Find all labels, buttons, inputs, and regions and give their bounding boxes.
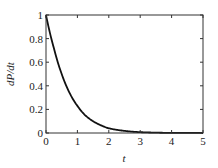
y-tick-label: 0.8 [29, 33, 43, 45]
y-tick-label: 0 [38, 127, 44, 139]
y-tick-label: 0.4 [29, 80, 43, 92]
y-tick-label: 0.6 [29, 56, 43, 68]
axes: 01234500.20.40.60.81 [29, 9, 206, 147]
x-axis-label: t [122, 152, 126, 164]
series-line [46, 15, 203, 133]
axes-frame [46, 15, 203, 133]
x-tick-label: 4 [169, 135, 175, 147]
y-tick-label: 0.2 [29, 103, 43, 115]
y-tick-label: 1 [38, 9, 44, 21]
x-tick-label: 3 [137, 135, 143, 147]
plot-area [46, 15, 203, 133]
x-tick-label: 5 [200, 135, 206, 147]
y-axis-label: dP/dt [4, 61, 16, 86]
x-tick-label: 0 [43, 135, 49, 147]
chart: 01234500.20.40.60.81 t dP/dt [0, 0, 218, 168]
x-tick-label: 1 [75, 135, 81, 147]
x-tick-label: 2 [106, 135, 112, 147]
